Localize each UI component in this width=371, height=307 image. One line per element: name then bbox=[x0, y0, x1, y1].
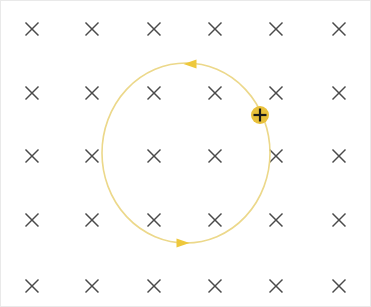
figure-canvas bbox=[1, 1, 371, 307]
figure-background bbox=[1, 1, 371, 307]
magnetic-field-figure bbox=[0, 0, 371, 307]
positive-charge-layer bbox=[251, 106, 269, 124]
